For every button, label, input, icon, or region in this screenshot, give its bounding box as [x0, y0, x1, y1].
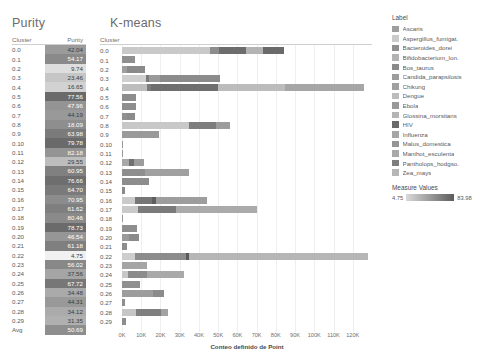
chart-bar-segment[interactable]	[122, 309, 136, 316]
purity-row[interactable]: 0.818.09	[12, 120, 86, 129]
chart-bar-row[interactable]: 0.6	[100, 102, 372, 111]
chart-bar-segment[interactable]	[219, 47, 246, 54]
chart-bar-row[interactable]: 0.7	[100, 111, 372, 120]
chart-stacked-bar[interactable]	[122, 290, 164, 297]
purity-row[interactable]: 0.1670.95	[12, 195, 86, 204]
chart-bar-segment[interactable]	[122, 122, 189, 129]
legend-item[interactable]: Aspergillus_fumigat.	[392, 34, 480, 44]
chart-bar-segment[interactable]	[122, 169, 145, 176]
chart-stacked-bar[interactable]	[122, 66, 145, 73]
legend-item[interactable]: Bifidobacterium_lon.	[392, 53, 480, 63]
chart-bar-segment[interactable]	[128, 271, 147, 278]
purity-row[interactable]: 0.1978.73	[12, 223, 86, 232]
chart-stacked-bar[interactable]	[122, 215, 123, 222]
chart-stacked-bar[interactable]	[122, 103, 136, 110]
purity-row[interactable]: 0.416.65	[12, 82, 86, 91]
chart-bar-row[interactable]: 0.18	[100, 214, 372, 223]
chart-bar-segment[interactable]	[122, 178, 149, 185]
chart-stacked-bar[interactable]	[122, 94, 136, 101]
purity-row[interactable]: 0.2744.31	[12, 297, 86, 306]
chart-bar-segment[interactable]	[246, 47, 263, 54]
chart-bar-segment[interactable]	[145, 169, 189, 176]
chart-bar-row[interactable]: 0.1	[100, 55, 372, 64]
chart-stacked-bar[interactable]	[122, 299, 125, 306]
chart-stacked-bar[interactable]	[122, 253, 368, 260]
chart-bar-segment[interactable]	[122, 187, 125, 194]
chart-bar-segment[interactable]	[156, 197, 207, 204]
legend-item[interactable]: Bacteroides_dorei	[392, 43, 480, 53]
legend-item[interactable]: Influenza	[392, 130, 480, 140]
purity-row[interactable]: 0.1229.55	[12, 157, 86, 166]
chart-bar-segment[interactable]	[122, 75, 146, 82]
legend-item[interactable]: Glossina_morsitans	[392, 110, 480, 120]
purity-row[interactable]: 0.224.75	[12, 251, 86, 260]
purity-row[interactable]: 0.1476.66	[12, 176, 86, 185]
chart-bar-row[interactable]: 0.29	[100, 317, 372, 326]
chart-stacked-bar[interactable]	[122, 318, 126, 325]
chart-bar-segment[interactable]	[122, 56, 135, 63]
chart-bar-segment[interactable]	[122, 318, 126, 325]
legend-item[interactable]: Zea_mays	[392, 168, 480, 178]
chart-bar-segment[interactable]	[122, 141, 123, 148]
chart-stacked-bar[interactable]	[122, 234, 139, 241]
chart-bar-segment[interactable]	[136, 309, 161, 316]
chart-stacked-bar[interactable]	[122, 243, 127, 250]
chart-bar-segment[interactable]	[122, 47, 210, 54]
chart-bar-segment[interactable]	[122, 290, 153, 297]
chart-stacked-bar[interactable]	[122, 262, 147, 269]
chart-stacked-bar[interactable]	[122, 169, 189, 176]
legend-item[interactable]: Bos_taurus	[392, 62, 480, 72]
chart-stacked-bar[interactable]	[122, 47, 284, 54]
chart-bar-row[interactable]: 0.25	[100, 280, 372, 289]
chart-bar-segment[interactable]	[127, 113, 136, 120]
chart-bar-segment[interactable]	[285, 84, 364, 91]
legend-item[interactable]: Candida_parapsilosis	[392, 72, 480, 82]
chart-bar-row[interactable]: 0.9	[100, 130, 372, 139]
purity-row[interactable]: 0.577.56	[12, 92, 86, 101]
chart-bar-row[interactable]: 0.28	[100, 308, 372, 317]
chart-bar-row[interactable]: 0.15	[100, 186, 372, 195]
chart-bar-segment[interactable]	[147, 271, 184, 278]
chart-bar-segment[interactable]	[122, 206, 138, 213]
chart-bar-segment[interactable]	[122, 281, 140, 288]
chart-bar-row[interactable]: 0.11	[100, 149, 372, 158]
purity-row[interactable]: 0.323.46	[12, 73, 86, 82]
purity-row[interactable]: 0.2046.54	[12, 232, 86, 241]
chart-stacked-bar[interactable]	[122, 113, 135, 120]
legend-item[interactable]: Ebola	[392, 101, 480, 111]
purity-row[interactable]: 0.2356.02	[12, 260, 86, 269]
chart-bar-segment[interactable]	[138, 206, 176, 213]
chart-stacked-bar[interactable]	[122, 197, 207, 204]
chart-bar-segment[interactable]	[129, 234, 140, 241]
chart-bar-row[interactable]: 0.19	[100, 224, 372, 233]
chart-bar-segment[interactable]	[122, 84, 147, 91]
chart-stacked-bar[interactable]	[122, 309, 168, 316]
chart-bar-segment[interactable]	[135, 197, 152, 204]
purity-row[interactable]: 0.1182.18	[12, 148, 86, 157]
chart-bar-segment[interactable]	[151, 84, 218, 91]
chart-bar-segment[interactable]	[127, 66, 145, 73]
purity-row[interactable]: 0.647.96	[12, 101, 86, 110]
legend-item[interactable]: Malus_domestica	[392, 139, 480, 149]
chart-bar-segment[interactable]	[122, 225, 137, 232]
chart-bar-segment[interactable]	[176, 206, 257, 213]
chart-bar-segment[interactable]	[189, 122, 216, 129]
chart-bar-segment[interactable]	[122, 215, 123, 222]
chart-bar-row[interactable]: 0.21	[100, 242, 372, 251]
purity-row[interactable]: 0.2437.56	[12, 269, 86, 278]
legend-item[interactable]: Dengue	[392, 91, 480, 101]
chart-stacked-bar[interactable]	[122, 122, 230, 129]
chart-bar-segment[interactable]	[135, 253, 187, 260]
chart-stacked-bar[interactable]	[122, 178, 149, 185]
purity-row[interactable]: 0.744.19	[12, 110, 86, 119]
purity-row[interactable]: 0.29.74	[12, 64, 86, 73]
legend-item[interactable]: Manihot_esculenta	[392, 149, 480, 159]
purity-row[interactable]: 0.2567.72	[12, 279, 86, 288]
chart-stacked-bar[interactable]	[122, 281, 140, 288]
chart-bar-segment[interactable]	[218, 84, 285, 91]
purity-row[interactable]: 0.1880.46	[12, 213, 86, 222]
chart-bar-row[interactable]: 0.5	[100, 93, 372, 102]
chart-bar-segment[interactable]	[122, 159, 129, 166]
purity-row[interactable]: 0.1761.62	[12, 204, 86, 213]
chart-bar-row[interactable]: 0.23	[100, 261, 372, 270]
